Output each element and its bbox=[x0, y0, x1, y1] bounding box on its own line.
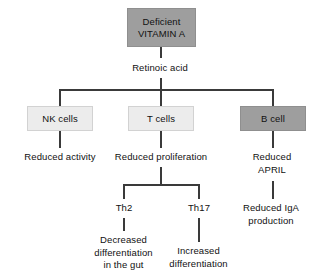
connector-level1-horizontal-bar bbox=[60, 89, 274, 91]
node-th2: Th2 bbox=[94, 202, 154, 215]
connector-t-outcome-to-th-split bbox=[160, 167, 162, 185]
connector-th-split-to-th17 bbox=[198, 184, 200, 199]
connector-th-split-to-th2 bbox=[123, 184, 125, 199]
connector-th-horizontal-bar bbox=[123, 184, 200, 186]
connector-april-to-iga bbox=[272, 181, 274, 199]
connector-root-to-retinoic-acid bbox=[160, 47, 162, 58]
connector-th2-to-outcome bbox=[123, 218, 125, 231]
vitamin-a-deficiency-flowchart: Deficient VITAMIN A Retinoic acid NK cel… bbox=[0, 0, 316, 278]
connector-split-to-nk-cells bbox=[59, 89, 61, 106]
connector-b-cell-to-outcome bbox=[272, 131, 274, 148]
node-deficient-vitamin-a: Deficient VITAMIN A bbox=[127, 8, 196, 47]
connector-split-to-b-cell bbox=[272, 89, 274, 106]
node-nk-cells: NK cells bbox=[27, 106, 93, 131]
node-t-cells: T cells bbox=[128, 106, 194, 131]
node-b-reduced-april: Reduced APRIL bbox=[230, 151, 314, 176]
connector-nk-cells-to-outcome bbox=[59, 131, 61, 148]
node-reduced-iga-production: Reduced IgA production bbox=[226, 202, 316, 227]
node-th17-outcome: Increased differentiation bbox=[152, 245, 245, 270]
connector-t-cells-to-outcome bbox=[160, 131, 162, 148]
connector-split-to-t-cells bbox=[160, 89, 162, 106]
node-th17: Th17 bbox=[169, 202, 229, 215]
node-b-cell: B cell bbox=[240, 106, 306, 131]
node-t-reduced-proliferation: Reduced proliferation bbox=[98, 151, 224, 164]
node-retinoic-acid: Retinoic acid bbox=[110, 62, 210, 75]
connector-th17-to-outcome bbox=[198, 218, 200, 242]
